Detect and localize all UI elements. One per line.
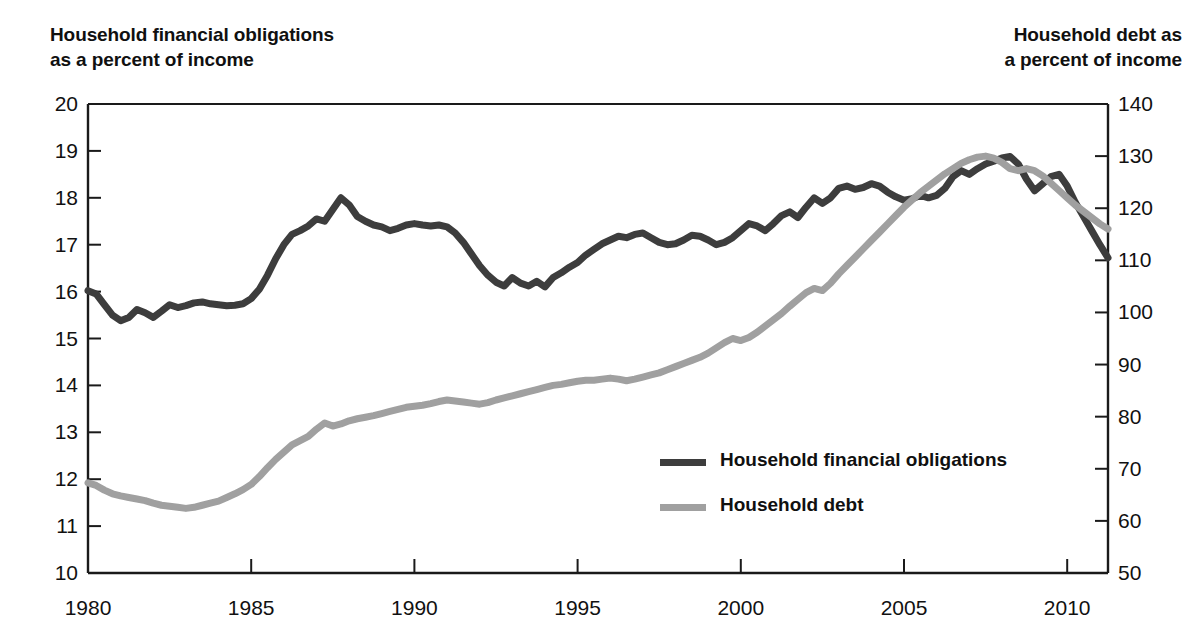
- right-tick-140: 140: [1118, 92, 1153, 116]
- chart-figure: Household financial obligations as a per…: [0, 0, 1200, 641]
- legend-swatch-household-financial-obligations: [660, 459, 706, 466]
- x-tick-2000: 2000: [717, 596, 764, 620]
- x-tick-2005: 2005: [881, 596, 928, 620]
- left-tick-17: 17: [55, 233, 78, 257]
- axis-ticks: [88, 151, 1108, 573]
- left-tick-18: 18: [55, 186, 78, 210]
- x-tick-2010: 2010: [1044, 596, 1091, 620]
- series-line-household-financial-obligations: [88, 157, 1108, 321]
- right-tick-50: 50: [1118, 561, 1141, 585]
- legend-swatch-household-debt: [660, 504, 706, 511]
- left-tick-16: 16: [55, 280, 78, 304]
- plot-area: [0, 0, 1200, 641]
- right-tick-120: 120: [1118, 196, 1153, 220]
- right-tick-80: 80: [1118, 405, 1141, 429]
- legend-label-household-debt: Household debt: [720, 494, 864, 516]
- right-tick-130: 130: [1118, 144, 1153, 168]
- x-tick-1995: 1995: [554, 596, 601, 620]
- left-tick-15: 15: [55, 327, 78, 351]
- right-tick-70: 70: [1118, 457, 1141, 481]
- x-tick-1980: 1980: [65, 596, 112, 620]
- left-tick-19: 19: [55, 139, 78, 163]
- left-tick-20: 20: [55, 92, 78, 116]
- left-tick-13: 13: [55, 420, 78, 444]
- right-tick-90: 90: [1118, 353, 1141, 377]
- left-tick-11: 11: [56, 514, 78, 538]
- right-tick-100: 100: [1118, 300, 1153, 324]
- right-tick-60: 60: [1118, 509, 1141, 533]
- legend-label-household-financial-obligations: Household financial obligations: [720, 449, 1007, 471]
- x-tick-1985: 1985: [228, 596, 275, 620]
- x-tick-1990: 1990: [391, 596, 438, 620]
- left-tick-12: 12: [55, 467, 78, 491]
- left-tick-10: 10: [55, 561, 78, 585]
- right-tick-110: 110: [1118, 248, 1151, 272]
- left-tick-14: 14: [55, 373, 78, 397]
